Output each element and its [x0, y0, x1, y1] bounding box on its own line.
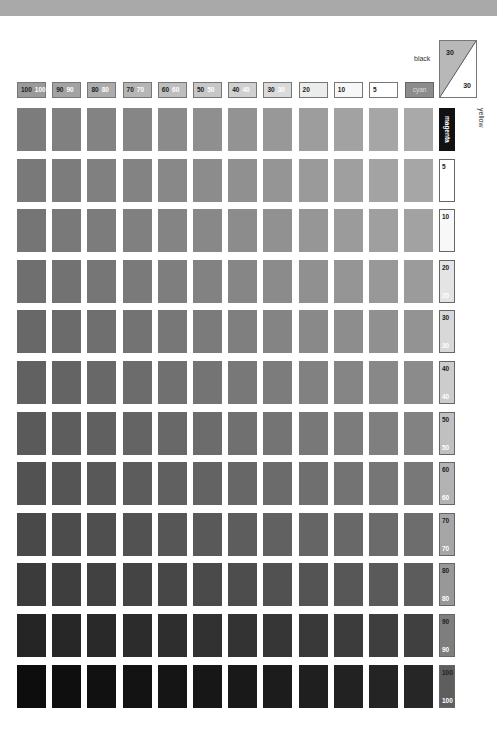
color-swatch — [123, 563, 152, 606]
color-swatch — [17, 310, 46, 353]
color-swatch — [158, 108, 187, 151]
color-swatch — [228, 310, 257, 353]
row-label-top-text: 90 — [442, 618, 449, 625]
color-swatch — [87, 462, 116, 505]
color-swatch — [299, 159, 328, 202]
color-swatch — [263, 260, 292, 303]
row-label-bottom-text: 40 — [442, 393, 449, 400]
row-label-bottom-text: 60 — [442, 494, 449, 501]
color-swatch — [263, 614, 292, 657]
color-swatch — [17, 108, 46, 151]
column-header-50: 5050 — [193, 82, 222, 98]
color-swatch — [52, 412, 81, 455]
color-swatch — [193, 462, 222, 505]
row-label-bottom-text: 90 — [442, 646, 449, 653]
row-label-bottom-text: 50 — [442, 444, 449, 451]
column-header-20: 20 — [299, 82, 328, 98]
row-label-top-text: 10 — [442, 213, 449, 220]
top-banner — [0, 0, 497, 16]
color-swatch — [334, 462, 363, 505]
row-label-top-text: 30 — [442, 314, 449, 321]
column-header-100: 100100 — [17, 82, 46, 98]
color-swatch — [52, 513, 81, 556]
color-swatch — [263, 563, 292, 606]
color-swatch — [193, 310, 222, 353]
header-black-text: 100 — [21, 86, 32, 93]
color-swatch — [334, 159, 363, 202]
color-swatch — [193, 159, 222, 202]
color-swatch — [123, 412, 152, 455]
row-label-100: 100100 — [439, 665, 455, 708]
color-swatch — [228, 260, 257, 303]
color-swatch — [17, 462, 46, 505]
color-swatch — [299, 260, 328, 303]
color-swatch — [369, 159, 398, 202]
color-swatch — [17, 563, 46, 606]
color-swatch — [299, 563, 328, 606]
color-swatch — [299, 513, 328, 556]
color-swatch — [228, 361, 257, 404]
color-swatch — [334, 108, 363, 151]
color-swatch — [17, 412, 46, 455]
column-header-90: 9090 — [52, 82, 81, 98]
color-swatch — [193, 665, 222, 708]
magenta-row-label: magenta — [439, 108, 455, 151]
color-swatch — [123, 665, 152, 708]
color-swatch — [263, 159, 292, 202]
color-swatch — [193, 108, 222, 151]
column-header-80: 8080 — [87, 82, 116, 98]
color-swatch — [87, 310, 116, 353]
color-swatch — [193, 361, 222, 404]
color-swatch — [158, 412, 187, 455]
color-swatch — [369, 462, 398, 505]
color-swatch — [17, 159, 46, 202]
color-swatch — [299, 462, 328, 505]
color-swatch — [404, 665, 433, 708]
color-swatch — [334, 361, 363, 404]
color-swatch — [123, 260, 152, 303]
color-swatch — [158, 462, 187, 505]
color-swatch — [228, 563, 257, 606]
header-white-text: 40 — [242, 86, 249, 93]
color-swatch — [123, 361, 152, 404]
row-label-bottom-text: 100 — [442, 697, 453, 704]
color-swatch — [52, 260, 81, 303]
color-swatch — [158, 159, 187, 202]
color-swatch — [404, 361, 433, 404]
header-white-text: 60 — [172, 86, 179, 93]
color-swatch — [17, 209, 46, 252]
color-swatch — [334, 665, 363, 708]
color-swatch — [87, 614, 116, 657]
color-swatch — [369, 209, 398, 252]
color-swatch — [404, 310, 433, 353]
color-swatch — [228, 159, 257, 202]
row-label-top-text: 80 — [442, 567, 449, 574]
color-swatch — [263, 665, 292, 708]
color-swatch — [404, 513, 433, 556]
row-label-50: 5050 — [439, 412, 455, 455]
color-swatch — [52, 665, 81, 708]
color-swatch — [263, 310, 292, 353]
color-swatch — [123, 209, 152, 252]
row-label-top-text: 70 — [442, 517, 449, 524]
header-black-text: 80 — [91, 86, 98, 93]
color-swatch — [193, 614, 222, 657]
color-swatch — [158, 209, 187, 252]
color-swatch — [404, 260, 433, 303]
color-swatch — [158, 614, 187, 657]
color-swatch — [158, 665, 187, 708]
row-label-60: 6060 — [439, 462, 455, 505]
row-label-top-text: 40 — [442, 365, 449, 372]
color-swatch — [87, 361, 116, 404]
color-swatch — [263, 108, 292, 151]
color-swatch — [404, 462, 433, 505]
row-label-40: 4040 — [439, 361, 455, 404]
row-label-10: 10 — [439, 209, 455, 252]
color-swatch — [299, 108, 328, 151]
color-swatch — [228, 209, 257, 252]
corner-yellow-value: 30 — [463, 82, 471, 89]
color-swatch — [193, 513, 222, 556]
color-swatch — [404, 614, 433, 657]
color-swatch — [193, 209, 222, 252]
color-swatch — [263, 513, 292, 556]
